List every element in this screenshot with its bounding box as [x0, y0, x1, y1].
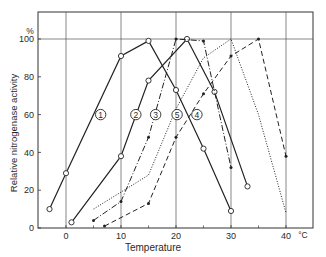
curve-label-4: 4 — [192, 109, 202, 119]
nitrogenase-temperature-chart: 010203040020406080100 12345 Temperature … — [0, 0, 326, 257]
data-point — [175, 136, 178, 139]
data-point — [285, 155, 288, 158]
axes: 010203040020406080100 — [19, 34, 291, 241]
curve-label-number: 3 — [153, 110, 158, 120]
series-line-4 — [105, 39, 287, 226]
data-point — [120, 200, 123, 203]
y-tick-label: 60 — [24, 110, 34, 120]
series-line-1 — [50, 41, 232, 211]
y-tick-label: 80 — [24, 72, 34, 82]
y-tick-label: 40 — [24, 148, 34, 158]
data-point — [173, 87, 178, 92]
data-point — [147, 202, 150, 205]
curve-label-number: 5 — [175, 110, 180, 120]
curve-label-number: 1 — [98, 110, 103, 120]
curve-label-5: 5 — [172, 109, 182, 119]
data-point — [47, 207, 52, 212]
data-point — [63, 171, 68, 176]
data-point — [245, 184, 250, 189]
x-tick-label: 30 — [226, 231, 236, 241]
data-point — [103, 225, 106, 228]
curve-label-number: 4 — [195, 110, 200, 120]
data-point — [146, 38, 151, 43]
series-5 — [94, 39, 287, 213]
y-axis-unit: % — [26, 26, 34, 36]
data-point — [118, 154, 123, 159]
data-point — [118, 53, 123, 58]
data-point — [92, 219, 95, 222]
data-point — [175, 38, 178, 41]
data-point — [201, 146, 206, 151]
y-tick-label: 20 — [24, 185, 34, 195]
data-point — [257, 38, 260, 41]
series-4 — [103, 38, 288, 228]
curve-label-number: 2 — [133, 110, 138, 120]
curve-label-1: 1 — [95, 109, 105, 119]
data-point — [202, 92, 205, 95]
x-axis-unit: °C — [298, 230, 308, 240]
curve-label-3: 3 — [150, 109, 160, 119]
data-point — [230, 166, 233, 169]
data-series — [47, 36, 288, 227]
curve-label-2: 2 — [131, 109, 141, 119]
data-point — [228, 208, 233, 213]
series-1 — [47, 38, 234, 213]
x-axis-label: Temperature — [125, 242, 182, 253]
y-tick-label: 0 — [29, 223, 34, 233]
x-tick-label: 20 — [171, 231, 181, 241]
data-point — [184, 36, 189, 41]
data-point — [147, 136, 150, 139]
x-tick-label: 0 — [63, 231, 68, 241]
data-point — [230, 55, 233, 58]
y-axis-label: Relative nitrogenase activity — [8, 74, 19, 193]
data-point — [146, 78, 151, 83]
data-point — [202, 39, 205, 42]
x-tick-label: 40 — [281, 231, 291, 241]
x-tick-label: 10 — [116, 231, 126, 241]
series-line-2 — [72, 39, 248, 222]
series-line-5 — [94, 39, 287, 213]
data-point — [69, 220, 74, 225]
